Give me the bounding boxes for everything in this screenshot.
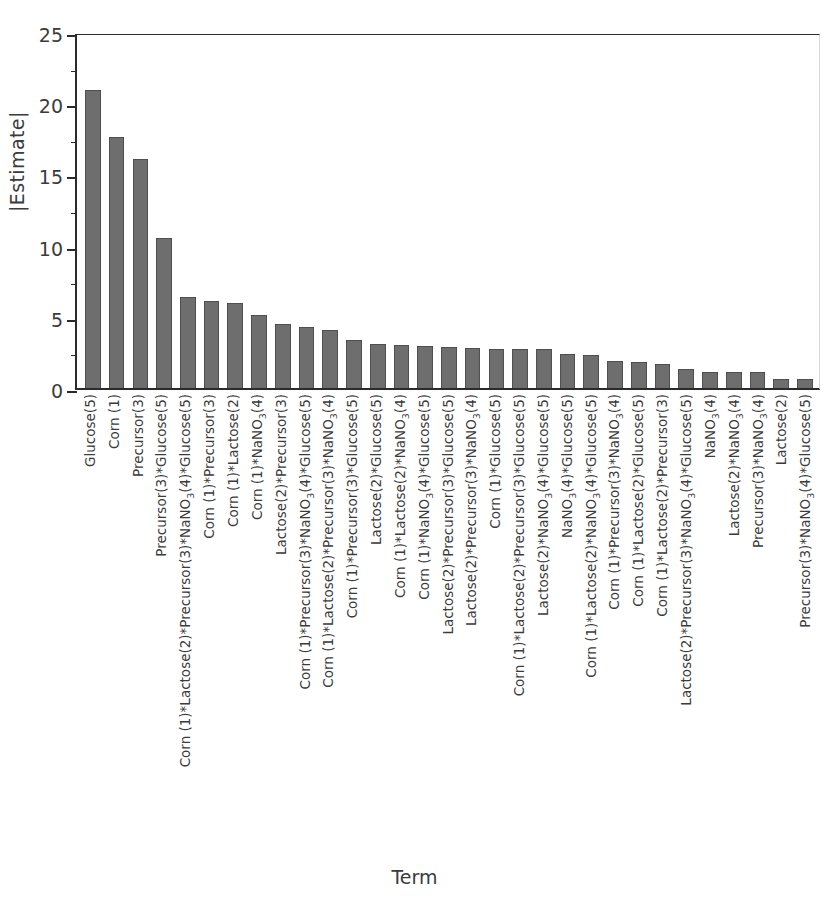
bar[interactable] [346, 340, 362, 388]
y-tick-major [67, 249, 77, 251]
y-tick-major [67, 391, 77, 393]
x-tick-label-slot: Glucose(5) [79, 394, 103, 844]
x-tick-label: NaNO3(4) [704, 394, 718, 458]
x-tick-label-slot: Corn (1)*Lactose(2)*NaNO3(4)*Glucose(5) [580, 394, 604, 844]
bar[interactable] [512, 349, 528, 388]
x-tick-label-slot: Lactose(2)*NaNO3(4) [723, 394, 747, 844]
x-tick-label-slot: Corn (1)*Lactose(2)*Glucose(5) [627, 394, 651, 844]
x-tick-label: Precursor(3)*NaNO3(4)*Glucose(5) [799, 394, 813, 628]
x-tick-label-slot: Precursor(3) [127, 394, 151, 844]
bar-slot [579, 35, 603, 388]
bar[interactable] [109, 137, 125, 388]
y-tick-label: 5 [51, 308, 63, 330]
bar[interactable] [583, 355, 599, 388]
bar[interactable] [750, 372, 766, 388]
bar[interactable] [465, 348, 481, 388]
bar[interactable] [251, 315, 267, 388]
bar[interactable] [370, 344, 386, 388]
x-tick-label-slot: Corn (1)*Glucose(5) [484, 394, 508, 844]
bar[interactable] [394, 345, 410, 388]
y-tick-label: 0 [51, 380, 63, 402]
bar[interactable] [299, 327, 315, 388]
x-tick-label: Corn (1) [108, 394, 122, 449]
x-axis-label: Term [0, 866, 829, 888]
x-tick-label: Precursor(3) [132, 394, 146, 477]
bar-slot [437, 35, 461, 388]
bar-slot [674, 35, 698, 388]
x-tick-label: Lactose(2)*Precursor(3)*NaNO3(4) [466, 394, 480, 626]
y-tick-major [67, 35, 77, 37]
bar[interactable] [489, 349, 505, 388]
bar[interactable] [156, 238, 172, 388]
x-tick-label: Corn (1)*NaNO3(4)*Glucose(5) [418, 394, 432, 600]
x-tick-label-slot: Precursor(3)*Glucose(5) [151, 394, 175, 844]
y-tick-label: 25 [39, 24, 63, 46]
x-tick-label: Lactose(2)*NaNO3(4) [728, 394, 742, 536]
bar[interactable] [702, 372, 718, 388]
bar[interactable] [180, 297, 196, 388]
bar[interactable] [726, 372, 742, 388]
bar-slot [651, 35, 675, 388]
bar[interactable] [536, 349, 552, 388]
x-tick-label: Lactose(2) [776, 394, 790, 465]
x-tick-label: Precursor(3)*NaNO3(4) [752, 394, 766, 548]
bar[interactable] [797, 379, 813, 388]
bar-slot [769, 35, 793, 388]
y-tick-major [67, 320, 77, 322]
x-tick-label: Corn (1)*Lactose(2)*Precursor(3)*NaNO3(4… [180, 394, 194, 767]
bar[interactable] [133, 159, 149, 388]
bar[interactable] [560, 354, 576, 388]
bar[interactable] [322, 330, 338, 388]
x-tick-label-slot: Lactose(2)*Glucose(5) [365, 394, 389, 844]
bar[interactable] [275, 324, 291, 388]
y-tick-major [67, 106, 77, 108]
x-tick-label-slot: NaNO3(4)*Glucose(5) [556, 394, 580, 844]
y-tick-label: 10 [39, 237, 63, 259]
bar-slot [223, 35, 247, 388]
x-tick-label-slot: Lactose(2)*NaNO3(4)*Glucose(5) [532, 394, 556, 844]
bar-slot [461, 35, 485, 388]
x-tick-label: Lactose(2)*NaNO3(4)*Glucose(5) [537, 394, 551, 616]
x-tick-label-slot: Lactose(2) [770, 394, 794, 844]
x-tick-label-slot: Lactose(2)*Precursor(3)*NaNO3(4) [461, 394, 485, 844]
bar-slot [200, 35, 224, 388]
x-tick-label: Lactose(2)*Precursor(3)*Glucose(5) [442, 394, 456, 635]
bar-slot [484, 35, 508, 388]
pareto-chart-figure: |Estimate| 0510152025 Glucose(5)Corn (1)… [0, 0, 829, 920]
bar[interactable] [417, 346, 433, 388]
x-tick-label-slot: Corn (1)*Lactose(2)*Precursor(3) [651, 394, 675, 844]
bar[interactable] [607, 361, 623, 388]
bar-slot [413, 35, 437, 388]
x-tick-label-slot: Corn (1)*Precursor(3)*NaNO3(4)*Glucose(5… [294, 394, 318, 844]
bar-slot [176, 35, 200, 388]
x-tick-label: Lactose(2)*Glucose(5) [370, 394, 384, 545]
bar[interactable] [773, 379, 789, 388]
bar[interactable] [441, 347, 457, 388]
x-tick-label: Corn (1)*Precursor(3)*NaNO3(4) [609, 394, 623, 610]
x-tick-label: Corn (1)*Lactose(2)*Glucose(5) [633, 394, 647, 607]
bar-slot [603, 35, 627, 388]
bar[interactable] [678, 369, 694, 388]
bar[interactable] [85, 90, 101, 388]
x-tick-label: Corn (1)*Lactose(2) [227, 394, 241, 527]
x-tick-label-slot: Lactose(2)*Precursor(3)*Glucose(5) [437, 394, 461, 844]
bar[interactable] [204, 301, 220, 388]
y-axis-label: |Estimate| [6, 111, 28, 212]
x-tick-label: NaNO3(4)*Glucose(5) [561, 394, 575, 538]
x-tick-label-slot: Corn (1)*Lactose(2)*NaNO3(4) [389, 394, 413, 844]
x-tick-label: Corn (1)*Lactose(2)*Precursor(3) [656, 394, 670, 617]
x-axis-tick-labels: Glucose(5)Corn (1)Precursor(3)Precursor(… [75, 394, 820, 844]
y-tick-major [67, 177, 77, 179]
x-tick-label-slot: Corn (1)*Precursor(3)*Glucose(5) [341, 394, 365, 844]
x-tick-label: Corn (1)*Lactose(2)*Precursor(3)*NaNO3(4… [323, 394, 337, 688]
bar[interactable] [655, 364, 671, 388]
x-tick-label: Corn (1)*Precursor(3)*Glucose(5) [346, 394, 360, 618]
bar[interactable] [227, 303, 243, 388]
x-tick-label-slot: Corn (1)*NaNO3(4) [246, 394, 270, 844]
x-tick-label-slot: Corn (1)*Lactose(2) [222, 394, 246, 844]
bar[interactable] [631, 362, 647, 388]
bar-slot [318, 35, 342, 388]
x-tick-label-slot: Corn (1)*Lactose(2)*Precursor(3)*NaNO3(4… [317, 394, 341, 844]
bar-slot [81, 35, 105, 388]
bar-series [77, 35, 819, 388]
